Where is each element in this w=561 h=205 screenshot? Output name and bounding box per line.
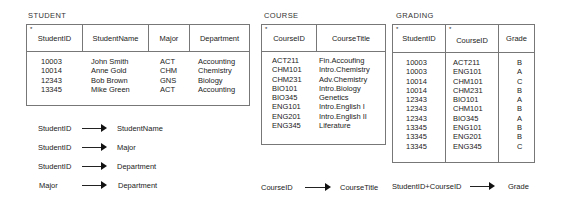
- student-column-department: Accounting Chemistry Biology Accounting: [198, 57, 235, 94]
- course-table-header: * CourseID CourseTitle: [262, 25, 385, 52]
- column-divider: [445, 52, 446, 162]
- header-label: StudentID: [38, 34, 71, 43]
- fd-to: Grade: [508, 182, 529, 191]
- header-label: Major: [160, 34, 179, 43]
- student-table-header: * StudentID StudentName Major Department: [27, 25, 249, 52]
- arrow-icon: [470, 182, 495, 191]
- fd-from: CourseID: [261, 183, 293, 192]
- student-table-title: STUDENT: [28, 11, 66, 20]
- grading-column-courseid: ACT211 ENG101 CHM101 CHM231 BIO101 CHM10…: [453, 58, 483, 151]
- header-label: StudentID: [402, 34, 435, 43]
- arrow-icon: [82, 181, 107, 190]
- header-department: Department: [189, 25, 249, 51]
- header-courseid: * CourseID: [262, 25, 316, 51]
- fd-from: StudentID: [38, 143, 71, 152]
- fd-from: StudentID+CourseID: [392, 182, 461, 191]
- grading-table-header: * StudentID * CourseID Grade: [393, 25, 534, 53]
- header-grade: Grade: [498, 25, 534, 52]
- primary-key-marker: *: [30, 26, 32, 32]
- course-table-title: COURSE: [264, 11, 299, 20]
- header-label: Department: [200, 34, 239, 43]
- primary-key-marker: *: [396, 26, 398, 32]
- header-label: CourseID: [456, 36, 488, 45]
- grading-column-studentid: 10003 10003 10014 10014 12343 12343 1234…: [406, 58, 427, 151]
- fd-to: Major: [117, 143, 136, 152]
- student-column-studentid: 10003 10014 12343 13345: [41, 57, 62, 94]
- arrow-icon: [82, 143, 107, 152]
- fd-to: CourseTitle: [340, 183, 378, 192]
- header-label: Grade: [506, 34, 527, 43]
- primary-key-marker: *: [265, 26, 267, 32]
- grading-column-grade: B A C B A B A B B C: [517, 58, 522, 151]
- header-coursetitle: CourseTitle: [316, 25, 385, 51]
- student-column-studentname: John Smith Anne Gold Bob Brown Mike Gree…: [91, 57, 130, 94]
- column-divider: [498, 52, 499, 162]
- header-major: Major: [148, 25, 189, 51]
- arrow-icon: [82, 162, 107, 171]
- header-label: StudentName: [93, 34, 139, 43]
- student-table: * StudentID StudentName Major Department…: [26, 24, 250, 106]
- fd-to: Department: [118, 181, 157, 190]
- header-studentid: * StudentID: [393, 25, 445, 52]
- arrow-icon: [305, 183, 331, 192]
- grading-table: * StudentID * CourseID Grade 10003 10003…: [392, 24, 535, 163]
- course-column-courseid: ACT211 CHM101 CHM231 BIO101 BIO345 ENG10…: [272, 56, 302, 130]
- course-table: * CourseID CourseTitle ACT211 CHM101 CHM…: [261, 24, 386, 145]
- fd-to: Department: [117, 162, 156, 171]
- header-label: CourseID: [273, 34, 305, 43]
- fd-from: Major: [39, 181, 58, 190]
- arrow-icon: [82, 124, 107, 133]
- header-studentid: * StudentID: [27, 25, 82, 51]
- course-column-coursetitle: Fin.Accoufing Intro.Chemistry Adv.Chemis…: [319, 56, 370, 130]
- primary-key-marker: *: [449, 26, 451, 32]
- header-studentname: StudentName: [82, 25, 148, 51]
- header-label: CourseTitle: [332, 34, 370, 43]
- fd-to: StudentName: [117, 124, 163, 133]
- fd-from: StudentID: [38, 162, 71, 171]
- header-courseid: * CourseID: [445, 25, 498, 52]
- grading-table-title: GRADING: [396, 11, 434, 20]
- student-column-major: ACT CHM GNS ACT: [160, 57, 177, 94]
- fd-from: StudentID: [38, 124, 71, 133]
